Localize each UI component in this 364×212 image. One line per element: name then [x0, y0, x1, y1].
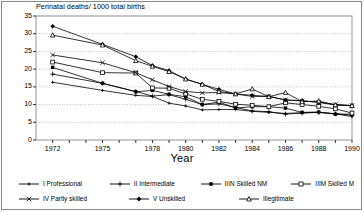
legend-marker-iv-partly-skilled — [18, 194, 40, 204]
series-v-unskilled — [50, 24, 354, 108]
legend-item-iv-partly-skilled: IV Partly skilled — [18, 194, 128, 204]
series-illegitimate — [50, 33, 354, 108]
x-tick-label: 1990 — [337, 145, 364, 152]
legend-label: IIIM Skilled M — [315, 180, 354, 187]
x-tick-label: 1988 — [304, 145, 334, 152]
x-tick-label: 1975 — [88, 145, 118, 152]
y-tick-label: 5 — [6, 118, 32, 125]
x-tick-label: 1980 — [171, 145, 201, 152]
legend-marker-v-unskilled — [128, 194, 150, 204]
x-tick-label: 1972 — [38, 145, 68, 152]
legend-item-ii-intermediate: II Intermediate — [109, 179, 200, 189]
legend-marker-illegitimate — [238, 194, 260, 204]
y-tick-label: 35 — [6, 12, 32, 19]
legend-marker-iiim-skilled-m — [290, 179, 312, 189]
legend-label: Illegitimate — [263, 195, 294, 202]
legend-item-iiin-skilled-nm: IIIN Skilled NM — [200, 179, 291, 189]
legend-label: IIIN Skilled NM — [225, 180, 268, 187]
y-tick-label: 25 — [6, 47, 32, 54]
legend-label: IV Partly skilled — [43, 195, 87, 202]
legend-row: I Professional II Intermediate IIIN Skil… — [18, 176, 354, 191]
legend-label: V Unskilled — [153, 195, 185, 202]
legend-item-illegitimate: Illegitimate — [238, 194, 348, 204]
legend-item-iiim-skilled-m: IIIM Skilled M — [290, 179, 354, 189]
legend-item-v-unskilled: V Unskilled — [128, 194, 238, 204]
y-tick-label: 15 — [6, 82, 32, 89]
y-tick-label: 20 — [6, 65, 32, 72]
series-iiin-skilled-nm — [51, 66, 354, 116]
y-tick-label: 10 — [6, 100, 32, 107]
legend-label: I Professional — [43, 180, 82, 187]
legend-row: IV Partly skilled V Unskilled Illegitima… — [18, 191, 354, 206]
x-tick-label: 1982 — [204, 145, 234, 152]
x-tick-label: 1986 — [270, 145, 300, 152]
y-tick-label: 0 — [6, 136, 32, 143]
chart-legend: I Professional II Intermediate IIIN Skil… — [18, 176, 354, 206]
legend-label: II Intermediate — [134, 180, 175, 187]
x-tick-label: 1978 — [137, 145, 167, 152]
x-axis-title: Year — [0, 152, 364, 164]
legend-marker-iiin-skilled-nm — [200, 179, 222, 189]
legend-item-i-professional: I Professional — [18, 179, 109, 189]
legend-marker-ii-intermediate — [109, 179, 131, 189]
y-tick-label: 30 — [6, 29, 32, 36]
chart-figure: Perinatal deaths/ 1000 total births Year… — [0, 0, 364, 212]
x-tick-label: 1984 — [237, 145, 267, 152]
legend-marker-i-professional — [18, 179, 40, 189]
